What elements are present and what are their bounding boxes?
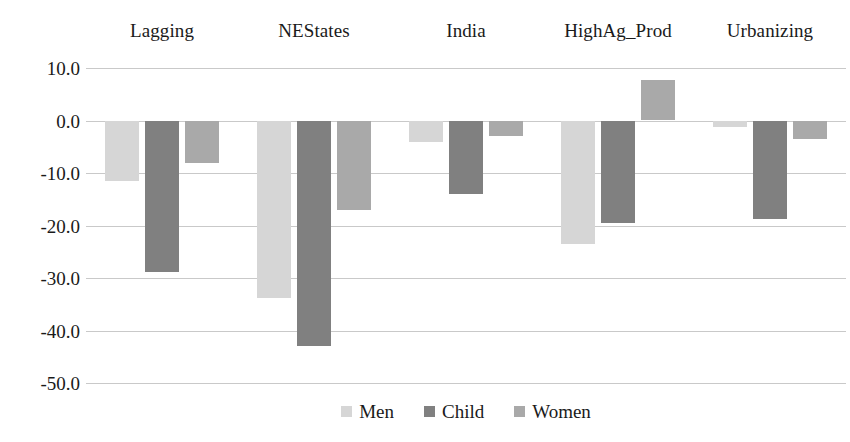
gridline [86,383,846,384]
bar-slot [409,68,443,383]
category-label: Urbanizing [694,16,846,46]
bar[interactable] [297,121,331,347]
category-label: NEStates [238,16,390,46]
bar[interactable] [257,121,291,298]
bar-group [86,68,238,383]
bar[interactable] [753,121,787,219]
category-label: India [390,16,542,46]
legend-swatch-icon [341,406,352,417]
legend-label: Men [359,402,394,421]
bar-slot [257,68,291,383]
bar-slot [337,68,371,383]
y-axis: 10.00.0-10.0-20.0-30.0-40.0-50.0 [0,68,80,383]
y-axis-tick-label: 10.0 [2,59,80,78]
bar-slot [297,68,331,383]
legend-label: Women [532,402,591,421]
bar-slot [185,68,219,383]
bar-slot [489,68,523,383]
bar-slot [713,68,747,383]
legend-item[interactable]: Men [341,402,394,421]
bar[interactable] [337,121,371,210]
legend-item[interactable]: Child [424,402,484,421]
bar-group [694,68,846,383]
bar[interactable] [713,121,747,127]
y-axis-tick-label: 0.0 [2,111,80,130]
y-axis-tick-label: -20.0 [2,216,80,235]
y-axis-tick-label: -50.0 [2,374,80,393]
bar[interactable] [561,121,595,244]
bar-chart: LaggingNEStatesIndiaHighAg_ProdUrbanizin… [0,0,850,442]
bar-slot-row [238,68,390,383]
bar[interactable] [185,121,219,163]
bar[interactable] [145,121,179,272]
bar-group [390,68,542,383]
bar[interactable] [449,121,483,195]
bar-group [542,68,694,383]
bar[interactable] [793,121,827,139]
legend: MenChildWomen [86,396,846,426]
category-label-row: LaggingNEStatesIndiaHighAg_ProdUrbanizin… [86,16,846,46]
bar-slot-row [542,68,694,383]
y-axis-tick-label: -10.0 [2,164,80,183]
bar-slot [601,68,635,383]
bar[interactable] [489,121,523,137]
y-axis-tick-label: -40.0 [2,321,80,340]
category-label: Lagging [86,16,238,46]
bar[interactable] [601,121,635,223]
bar[interactable] [641,80,675,121]
y-axis-tick-label: -30.0 [2,269,80,288]
legend-swatch-icon [514,406,525,417]
bar-slot-row [86,68,238,383]
legend-label: Child [442,402,484,421]
legend-swatch-icon [424,406,435,417]
bar-groups [86,68,846,383]
legend-item[interactable]: Women [514,402,591,421]
bar-slot [793,68,827,383]
bar-slot [561,68,595,383]
bar-slot-row [390,68,542,383]
bar-slot-row [694,68,846,383]
bar[interactable] [409,121,443,142]
bar-slot [105,68,139,383]
plot-area [86,68,846,383]
bar-slot [145,68,179,383]
category-label: HighAg_Prod [542,16,694,46]
bar-slot [753,68,787,383]
bar-slot [449,68,483,383]
bar-group [238,68,390,383]
bar[interactable] [105,121,139,182]
bar-slot [641,68,675,383]
